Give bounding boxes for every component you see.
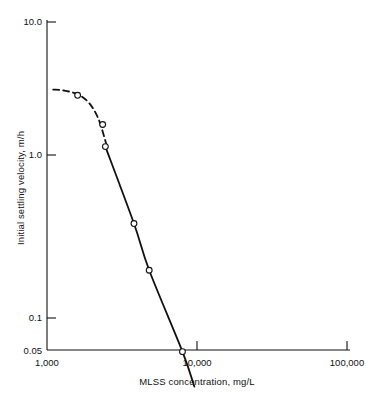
data-point	[146, 267, 152, 273]
chart-background	[0, 0, 385, 402]
chart-svg: 10.0 1.0 0.1 0.05 1,000 10,000 100,000 M…	[0, 0, 385, 402]
y-tick-label-1: 1.0	[29, 149, 42, 160]
y-tick-label-0.05: 0.05	[24, 345, 43, 356]
y-tick-label-10: 10.0	[24, 16, 43, 27]
y-tick-label-0.1: 0.1	[29, 312, 42, 323]
y-axis-title: Initial settling velocity, m/h	[15, 131, 26, 245]
data-point	[75, 92, 81, 98]
x-axis-title: MLSS concentration, mg/L	[139, 376, 255, 387]
data-point	[180, 349, 186, 355]
data-point	[131, 221, 137, 227]
data-point	[100, 122, 106, 128]
data-point	[102, 144, 108, 150]
x-tick-label-1000: 1,000	[35, 357, 59, 368]
settling-velocity-chart: 10.0 1.0 0.1 0.05 1,000 10,000 100,000 M…	[0, 0, 385, 402]
x-tick-label-100000: 100,000	[330, 357, 364, 368]
